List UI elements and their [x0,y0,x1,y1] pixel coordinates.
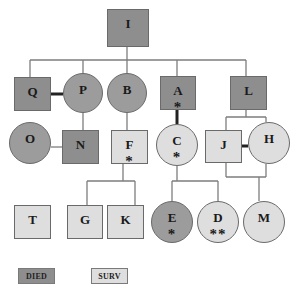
person-label: I [125,17,130,30]
person-q-male: Q [14,77,51,111]
asterisk-marker-icon: * [125,154,134,168]
person-label: O [25,132,35,145]
person-label: T [28,213,37,226]
person-label: D [213,211,222,224]
asterisk-marker-icon: * [173,150,182,164]
person-j-male: J [205,130,242,163]
person-l-male: L [230,76,267,110]
person-label: Q [27,85,37,98]
pedigree-diagram: IQPBA*LONF*C*JHTGKE*D**M DIEDSURV [0,0,298,298]
person-label: B [123,83,132,96]
person-label: G [80,213,90,226]
person-t-male: T [14,205,51,239]
person-a-male: A* [160,76,196,110]
asterisk-marker-icon: * [168,227,177,241]
person-label: H [264,132,274,145]
person-i-male: I [107,9,149,47]
person-o-female: O [9,122,51,164]
person-label: K [120,213,130,226]
person-label: L [244,84,253,97]
person-g-male: G [67,205,103,239]
person-c-female: C* [156,124,198,166]
person-label: A [173,84,182,97]
person-label: J [220,138,227,151]
person-label: P [79,83,87,96]
person-label: C [172,134,181,147]
person-m-female: M [243,201,285,243]
asterisk-marker-icon: * [174,100,183,114]
person-h-female: H [248,122,290,164]
asterisk-marker-icon: ** [210,227,227,241]
person-label: M [258,211,270,224]
person-label: N [76,138,85,151]
person-n-male: N [62,130,99,164]
person-label: F [126,138,134,151]
person-f-male: F* [111,130,148,164]
person-k-male: K [107,205,144,239]
person-d-female: D** [197,201,239,243]
person-p-female: P [63,73,103,113]
legend-surv: SURV [91,268,128,284]
person-e-female: E* [151,201,193,243]
person-label: E [168,211,177,224]
person-b-female: B [107,73,147,113]
legend-died: DIED [18,268,55,284]
